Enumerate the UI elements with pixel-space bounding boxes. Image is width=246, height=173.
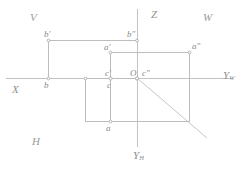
point-label-a: a <box>106 124 111 133</box>
point-label-b: b <box>44 81 49 90</box>
axis-label-yh: YH <box>133 150 144 162</box>
point-marker-b-prime <box>47 39 50 42</box>
axis-label-yw: YW <box>223 70 235 82</box>
plane-label-w: W <box>203 12 212 23</box>
projection-drawing: V W H X Z YW YH b' b" a' a" c' c" c O b … <box>0 0 246 173</box>
axis-label-x: X <box>12 84 19 95</box>
projection-lines-svg <box>0 0 246 173</box>
point-label-c-double: c" <box>142 69 150 78</box>
point-marker-a-double <box>188 51 191 54</box>
point-label-a-prime: a' <box>104 43 110 52</box>
point-marker-c-left <box>84 77 87 80</box>
point-label-origin: O <box>130 69 137 78</box>
axis-label-yw-subscript: W <box>229 74 234 81</box>
plane-label-h: H <box>32 136 40 147</box>
axis-label-yh-subscript: H <box>139 154 144 161</box>
axis-label-z: Z <box>151 9 157 20</box>
point-label-b-double: b" <box>127 30 135 39</box>
plane-label-v: V <box>30 12 37 23</box>
bisector-line <box>137 78 207 138</box>
point-label-b-prime: b' <box>44 30 50 39</box>
point-marker-b-double <box>136 39 139 42</box>
point-label-c-prime: c' <box>105 69 111 78</box>
point-label-c: c <box>107 81 111 90</box>
point-label-a-double: a" <box>192 42 200 51</box>
